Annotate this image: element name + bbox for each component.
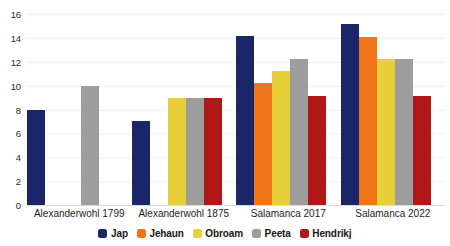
x-axis-category-label: Alexanderwohl 1875 — [132, 205, 237, 223]
legend-item[interactable]: Jap — [98, 228, 127, 239]
bar-groups — [27, 14, 445, 205]
bar-slot — [63, 14, 81, 205]
bar-slot — [204, 14, 236, 205]
x-axis-category-label: Alexanderwohl 1799 — [27, 205, 132, 223]
bar-slot — [254, 14, 272, 205]
legend-item[interactable]: Hendrikj — [300, 228, 352, 239]
legend-item[interactable]: Peeta — [252, 228, 291, 239]
bar[interactable] — [27, 110, 45, 206]
bar-slot — [272, 14, 290, 205]
bar-group — [341, 14, 446, 205]
y-axis-tick-label: 2 — [16, 176, 21, 187]
bar-slot — [236, 14, 254, 205]
bar-slot — [377, 14, 395, 205]
bar[interactable] — [308, 96, 326, 205]
y-axis-tick-label: 16 — [11, 9, 21, 20]
bar-slot — [99, 14, 131, 205]
bar-slot — [186, 14, 204, 205]
y-axis-tick-label: 0 — [16, 200, 21, 211]
bar-slot — [150, 14, 168, 205]
bar[interactable] — [359, 37, 377, 205]
chart-legend: JapJehaunObroamPeetaHendrikj — [0, 224, 450, 242]
legend-item-label: Jap — [111, 228, 128, 239]
bar-slot — [81, 14, 99, 205]
bar-slot — [45, 14, 63, 205]
bar-group — [132, 14, 237, 205]
legend-item-label: Peeta — [265, 228, 291, 239]
bar[interactable] — [413, 96, 431, 205]
y-axis-tick-label: 10 — [11, 80, 21, 91]
bar[interactable] — [395, 59, 413, 205]
legend-swatch-icon — [137, 229, 146, 238]
y-axis-tick-label: 14 — [11, 32, 21, 43]
bar-slot — [395, 14, 413, 205]
bar-slot — [341, 14, 359, 205]
bar-chart: 1614121086420 Alexanderwohl 1799Alexande… — [0, 0, 450, 246]
y-axis-tick-labels: 1614121086420 — [0, 14, 27, 205]
legend-swatch-icon — [300, 229, 309, 238]
plot-area — [27, 14, 445, 205]
legend-item[interactable]: Obroam — [193, 228, 243, 239]
bar[interactable] — [254, 83, 272, 205]
bar-slot — [413, 14, 445, 205]
bar-group — [27, 14, 132, 205]
x-axis-category-labels: Alexanderwohl 1799Alexanderwohl 1875Sala… — [27, 205, 445, 223]
legend-item-label: Jehaun — [149, 228, 183, 239]
bar-slot — [359, 14, 377, 205]
legend-swatch-icon — [252, 229, 261, 238]
bar[interactable] — [81, 86, 99, 205]
legend-item-label: Obroam — [205, 228, 243, 239]
legend-swatch-icon — [193, 229, 202, 238]
bar-slot — [168, 14, 186, 205]
y-axis-tick-label: 8 — [16, 104, 21, 115]
bar[interactable] — [377, 59, 395, 205]
y-axis-tick-label: 12 — [11, 56, 21, 67]
bar[interactable] — [168, 98, 186, 205]
bar[interactable] — [204, 98, 222, 205]
y-axis-tick-label: 4 — [16, 152, 21, 163]
bar-group — [236, 14, 341, 205]
y-axis-tick-label: 6 — [16, 128, 21, 139]
bar-slot — [27, 14, 45, 205]
bar-slot — [132, 14, 150, 205]
x-axis-category-label: Salamanca 2022 — [341, 205, 446, 223]
bar-slot — [290, 14, 308, 205]
x-axis-category-label: Salamanca 2017 — [236, 205, 341, 223]
bar[interactable] — [132, 121, 150, 205]
bar-slot — [308, 14, 340, 205]
bar[interactable] — [341, 24, 359, 205]
bar[interactable] — [272, 71, 290, 205]
legend-item-label: Hendrikj — [312, 228, 351, 239]
bar[interactable] — [290, 59, 308, 205]
bar[interactable] — [236, 36, 254, 206]
legend-swatch-icon — [98, 229, 107, 238]
bar[interactable] — [186, 98, 204, 205]
legend-item[interactable]: Jehaun — [137, 228, 184, 239]
